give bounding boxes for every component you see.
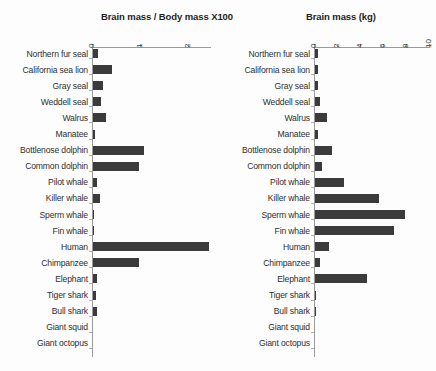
y-axis-tick xyxy=(89,58,92,59)
bar xyxy=(315,81,318,90)
y-axis-tick xyxy=(311,316,314,317)
category-label: Walrus xyxy=(218,113,310,123)
bar xyxy=(315,49,318,58)
x-axis-tick-label: 6 xyxy=(379,44,387,48)
y-axis-tick xyxy=(311,332,314,333)
y-axis-tick xyxy=(311,235,314,236)
y-axis-tick xyxy=(89,139,92,140)
bar xyxy=(93,242,209,251)
bar xyxy=(315,97,320,106)
bar xyxy=(93,258,139,267)
bar xyxy=(93,113,106,122)
y-axis-tick xyxy=(89,332,92,333)
x-axis-tick-label: 1 xyxy=(136,44,144,48)
category-label: Tiger shark xyxy=(0,290,88,300)
x-axis-tick-label: 2 xyxy=(184,44,192,48)
x-axis-tick-label: 10 xyxy=(425,39,433,48)
x-axis-tick-label: 8 xyxy=(402,44,410,48)
y-axis-tick xyxy=(89,267,92,268)
y-axis-tick xyxy=(89,171,92,172)
y-axis-tick xyxy=(311,300,314,301)
category-label: California sea lion xyxy=(0,65,88,75)
chart-panel-brain-mass: Brain mass (kg) 0246810 Northern fur sea… xyxy=(218,0,436,371)
y-axis-tick xyxy=(89,187,92,188)
category-label: Common dolphin xyxy=(218,161,310,171)
category-label: Bull shark xyxy=(0,306,88,316)
category-label: Manatee xyxy=(218,129,310,139)
chart-title-right: Brain mass (kg) xyxy=(306,11,376,22)
y-axis-tick xyxy=(311,187,314,188)
category-label: Human xyxy=(218,242,310,252)
y-axis-tick xyxy=(89,283,92,284)
y-axis-tick xyxy=(311,348,314,349)
category-label: California sea lion xyxy=(218,65,310,75)
y-axis-tick xyxy=(311,139,314,140)
category-label: Manatee xyxy=(0,129,88,139)
category-label: Giant octopus xyxy=(218,338,310,348)
bar xyxy=(315,194,379,203)
category-label: Weddell seal xyxy=(0,97,88,107)
bar xyxy=(93,162,139,171)
bar xyxy=(315,162,322,171)
category-label: Northern fur seal xyxy=(218,49,310,59)
y-axis-tick xyxy=(89,106,92,107)
chart-page: Brain mass / Body mass X100 012 Northern… xyxy=(0,0,436,371)
category-label: Human xyxy=(0,242,88,252)
bar xyxy=(93,291,96,300)
category-label: Fin whale xyxy=(0,226,88,236)
y-axis-tick xyxy=(89,155,92,156)
y-axis-tick xyxy=(311,74,314,75)
bar xyxy=(315,113,327,122)
x-axis-line xyxy=(92,47,211,48)
chart-panel-brain-body-ratio: Brain mass / Body mass X100 012 Northern… xyxy=(0,0,218,371)
category-label: Common dolphin xyxy=(0,161,88,171)
category-label: Killer whale xyxy=(218,193,310,203)
category-label: Giant octopus xyxy=(0,338,88,348)
bar xyxy=(93,65,112,74)
bar xyxy=(315,242,329,251)
y-axis-tick xyxy=(89,300,92,301)
y-axis-tick xyxy=(89,235,92,236)
category-label: Gray seal xyxy=(0,81,88,91)
y-axis-tick xyxy=(311,203,314,204)
y-axis-tick xyxy=(89,348,92,349)
bar xyxy=(93,130,95,139)
y-axis-tick xyxy=(89,90,92,91)
y-axis-tick xyxy=(89,316,92,317)
bar xyxy=(93,210,94,219)
x-axis-tick-label: 0 xyxy=(310,44,318,48)
bar xyxy=(93,97,101,106)
y-axis-tick xyxy=(89,122,92,123)
category-label: Fin whale xyxy=(218,226,310,236)
category-label: Pilot whale xyxy=(0,177,88,187)
category-label: Giant squid xyxy=(218,322,310,332)
category-label: Northern fur seal xyxy=(0,49,88,59)
category-label: Chimpanzee xyxy=(218,258,310,268)
y-axis-tick xyxy=(311,267,314,268)
x-axis-tick-label: 2 xyxy=(333,44,341,48)
category-label: Walrus xyxy=(0,113,88,123)
bar xyxy=(93,146,144,155)
bar xyxy=(315,146,332,155)
y-axis-tick xyxy=(311,219,314,220)
y-axis-tick xyxy=(311,106,314,107)
category-label: Sperm whale xyxy=(0,210,88,220)
category-label: Bottlenose dolphin xyxy=(218,145,310,155)
bar xyxy=(315,274,367,283)
x-axis-tick-label: 4 xyxy=(356,44,364,48)
y-axis-tick xyxy=(311,251,314,252)
bar xyxy=(93,274,97,283)
y-axis-tick xyxy=(311,122,314,123)
y-axis-tick xyxy=(89,74,92,75)
bar xyxy=(93,194,100,203)
y-axis-tick xyxy=(89,203,92,204)
category-label: Bottlenose dolphin xyxy=(0,145,88,155)
category-label: Giant squid xyxy=(0,322,88,332)
bar xyxy=(315,307,316,316)
x-axis-tick-label: 0 xyxy=(88,44,96,48)
y-axis-tick xyxy=(311,90,314,91)
category-label: Killer whale xyxy=(0,193,88,203)
chart-title-left: Brain mass / Body mass X100 xyxy=(101,11,233,22)
y-axis-tick xyxy=(311,171,314,172)
bar xyxy=(315,178,344,187)
